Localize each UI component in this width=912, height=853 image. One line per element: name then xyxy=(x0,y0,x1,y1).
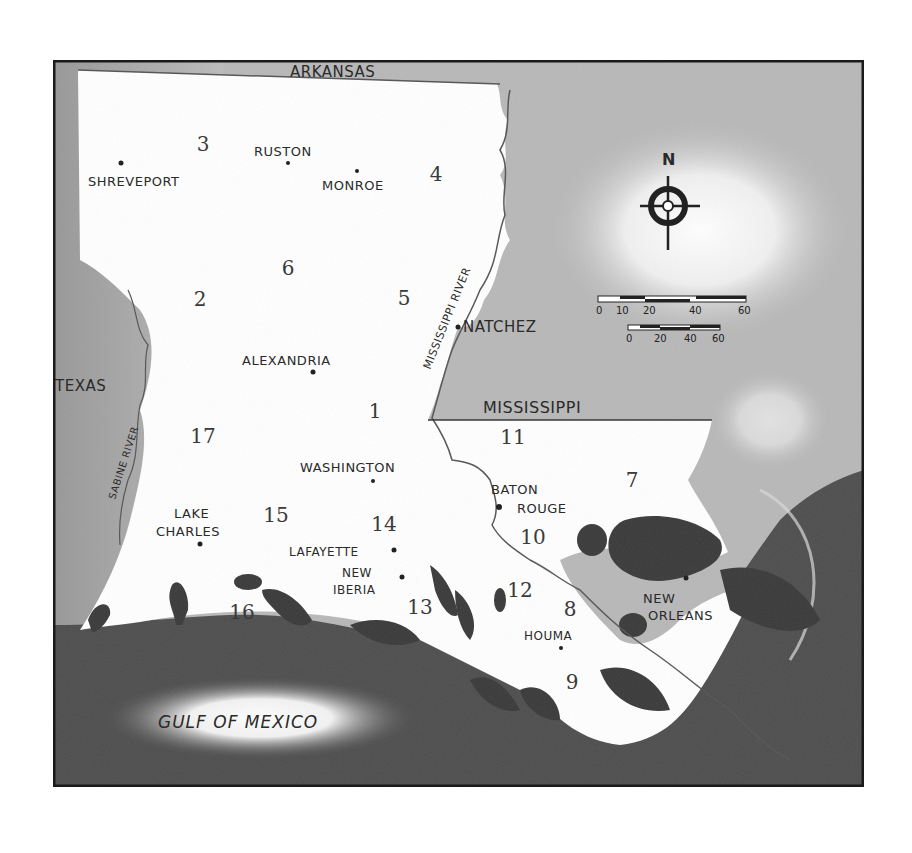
svg-text:40: 40 xyxy=(684,333,697,344)
region-6: 6 xyxy=(282,256,295,280)
state-label-texas: TEXAS xyxy=(54,377,106,395)
svg-text:10: 10 xyxy=(616,305,629,316)
city-natchez: NATCHEZ xyxy=(456,318,537,336)
louisiana-map: ARKANSAS TEXAS MISSISSIPPI MISSISSIPPI R… xyxy=(53,60,864,787)
svg-text:WASHINGTON: WASHINGTON xyxy=(300,460,395,475)
region-10: 10 xyxy=(520,525,545,549)
region-12: 12 xyxy=(507,578,532,602)
svg-text:ALEXANDRIA: ALEXANDRIA xyxy=(242,353,331,368)
svg-text:NEW: NEW xyxy=(643,591,675,606)
svg-text:N: N xyxy=(662,150,676,169)
region-15: 15 xyxy=(263,503,288,527)
svg-text:0: 0 xyxy=(626,333,632,344)
gulf-label: GULF OF MEXICO xyxy=(158,712,318,732)
state-label-mississippi: MISSISSIPPI xyxy=(483,398,581,417)
svg-text:NATCHEZ: NATCHEZ xyxy=(463,318,537,336)
region-4: 4 xyxy=(430,162,443,186)
region-14: 14 xyxy=(371,512,396,536)
region-13: 13 xyxy=(407,595,432,619)
svg-text:RUSTON: RUSTON xyxy=(254,144,312,159)
svg-text:CHARLES: CHARLES xyxy=(156,524,220,539)
region-16: 16 xyxy=(229,600,254,624)
region-5: 5 xyxy=(398,286,411,310)
svg-text:20: 20 xyxy=(654,333,667,344)
svg-text:LAFAYETTE: LAFAYETTE xyxy=(289,545,359,559)
svg-text:HOUMA: HOUMA xyxy=(524,629,573,643)
svg-text:60: 60 xyxy=(738,305,751,316)
svg-text:ORLEANS: ORLEANS xyxy=(648,608,713,623)
state-label-arkansas: ARKANSAS xyxy=(290,63,375,81)
region-1: 1 xyxy=(369,399,382,423)
svg-text:SHREVEPORT: SHREVEPORT xyxy=(88,174,179,189)
region-2: 2 xyxy=(194,287,207,311)
svg-text:20: 20 xyxy=(643,305,656,316)
region-9: 9 xyxy=(566,670,579,694)
svg-text:NEW: NEW xyxy=(342,566,372,580)
svg-text:IBERIA: IBERIA xyxy=(333,583,376,597)
svg-text:MONROE: MONROE xyxy=(322,178,384,193)
region-8: 8 xyxy=(564,597,577,621)
svg-text:ROUGE: ROUGE xyxy=(517,501,567,516)
svg-text:60: 60 xyxy=(712,333,725,344)
svg-text:BATON: BATON xyxy=(491,482,538,497)
region-11: 11 xyxy=(500,425,525,449)
region-3: 3 xyxy=(197,132,210,156)
svg-text:0: 0 xyxy=(596,305,602,316)
region-7: 7 xyxy=(626,468,639,492)
svg-text:40: 40 xyxy=(689,305,702,316)
region-17: 17 xyxy=(190,424,215,448)
svg-text:LAKE: LAKE xyxy=(174,506,209,521)
